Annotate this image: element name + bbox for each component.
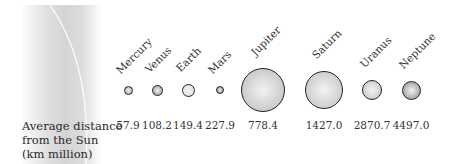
planet-neptune-icon [402, 81, 421, 100]
distance-uranus: 2870.7 [354, 119, 391, 131]
planet-name-earth: Earth [174, 44, 204, 74]
label-line-3: (km million) [22, 147, 122, 161]
planet-uranus-icon [362, 80, 382, 100]
planet-mercury-icon [124, 86, 133, 95]
distance-jupiter: 778.4 [248, 119, 278, 131]
planet-name-saturn: Saturn [310, 27, 344, 61]
planet-name-jupiter: Jupiter [249, 24, 283, 58]
distance-mercury: 57.9 [116, 119, 139, 131]
distance-neptune: 4497.0 [393, 119, 430, 131]
planet-earth-icon [182, 84, 195, 97]
distance-earth: 149.4 [173, 119, 203, 131]
distance-venus: 108.2 [142, 119, 172, 131]
planet-name-mars: Mars [206, 48, 234, 76]
planet-jupiter-icon [241, 68, 285, 112]
distance-mars: 227.9 [205, 119, 235, 131]
planet-name-neptune: Neptune [397, 29, 438, 70]
label-line-1: Average distance [22, 119, 122, 133]
distance-row-label: Average distance from the Sun (km millio… [22, 119, 122, 161]
distance-saturn: 1427.0 [306, 119, 343, 131]
planet-name-uranus: Uranus [358, 34, 394, 70]
planet-saturn-icon [305, 71, 343, 109]
label-line-2: from the Sun [22, 133, 122, 147]
planet-mars-icon [216, 86, 224, 94]
planet-venus-icon [152, 85, 163, 96]
